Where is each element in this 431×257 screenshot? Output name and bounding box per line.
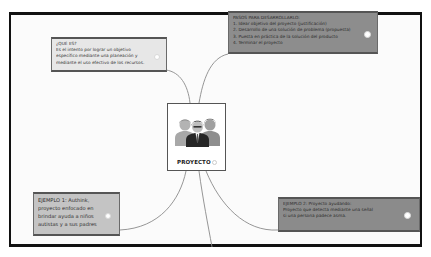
node-ejemplo-1[interactable]: EJEMPLO 1: Authink, proyecto enfocado en… [33,192,120,236]
collapse-toggle-icon[interactable] [105,213,111,219]
node-text: si una persona padece asma. [283,213,409,219]
connector-que-es [166,70,190,103]
node-que-es[interactable]: ¿QUÉ ES? Es el intento por lograr un obj… [51,37,167,72]
connector-ejemplo-2 [206,171,278,230]
collapse-toggle-icon[interactable] [154,54,160,60]
node-text: 2. Desarrollo de una solución de problem… [233,27,367,33]
group-of-people-icon [175,116,220,156]
central-topic-label: PROYECTO [177,159,211,165]
node-pasos[interactable]: PASOS PARA DESARROLLARLO: 1. Idear objet… [228,11,378,54]
node-text: 4. Terminar el proyecto [233,40,367,46]
collapse-toggle-icon[interactable] [364,31,371,38]
connector-ejemplo-1 [120,171,186,230]
collapse-toggle-icon[interactable] [404,212,411,219]
node-title: EJEMPLO 1: Authink, [38,196,109,204]
node-text: brindar ayuda a niños [38,212,109,220]
node-text: mediante el uso efectivo de los recursos… [56,60,156,66]
node-text: proyecto enfocado en [38,204,109,212]
collapse-toggle-icon[interactable] [212,160,217,165]
connector-pasos [199,54,228,103]
node-text: autistas y a sus padres [38,220,109,228]
node-ejemplo-2[interactable]: EJEMPLO 2: Proyecto ayudando: Proyecto q… [278,197,420,232]
central-topic[interactable]: PROYECTO [167,103,226,171]
connector-bottom [199,171,212,247]
